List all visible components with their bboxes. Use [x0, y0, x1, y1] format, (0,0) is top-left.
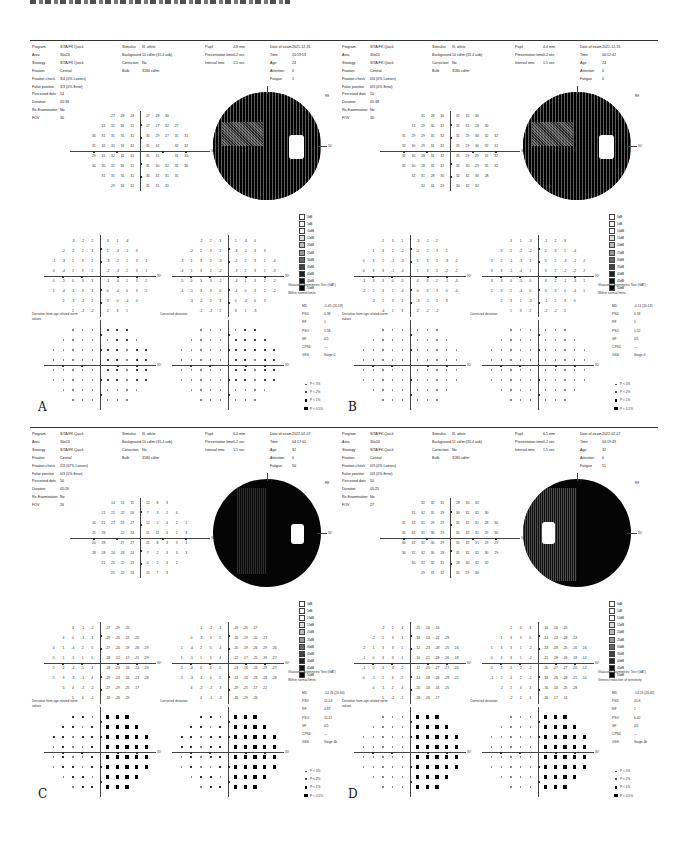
probability-symbol — [107, 389, 108, 390]
probability-symbol — [555, 349, 556, 350]
grid-value: -16 — [123, 666, 131, 670]
probability-symbol — [116, 755, 119, 758]
probability-symbol — [573, 725, 576, 728]
grid-value: -3 — [561, 259, 569, 263]
probability-symbol — [520, 766, 521, 767]
grid-value: 2 — [79, 249, 87, 253]
probability-symbol — [145, 755, 148, 758]
header-col-test: ProgramSITA/FK QuickArea30x24StrategySIT… — [342, 431, 396, 510]
grid-value: 31 — [128, 134, 136, 138]
field-strategy-value: SITA/FK Quick — [370, 60, 394, 68]
axis-tick — [372, 276, 374, 278]
field-presentation-time: Presentation time0.2 sec — [205, 439, 245, 447]
grid-value: 4 — [398, 686, 406, 690]
axis-tick — [427, 365, 429, 367]
grid-value: -25 — [241, 686, 249, 690]
index-md-label: MD — [612, 302, 634, 310]
axis-tick — [372, 752, 374, 754]
probability-legend-label: P < 5% — [310, 380, 320, 388]
probability-symbol — [392, 349, 393, 350]
axis-tick — [140, 124, 142, 126]
index-psd-value: 15.8 — [634, 699, 640, 703]
probability-symbol — [254, 359, 255, 360]
grid-value: -16 — [452, 646, 460, 650]
axis-tick — [426, 538, 428, 540]
grid-value: 24 — [90, 521, 98, 525]
legend-label: 30dB — [617, 645, 624, 649]
grid-value: 27 — [119, 541, 127, 545]
grid-value: -24 — [232, 676, 240, 680]
probability-symbol — [530, 339, 531, 340]
probability-symbol — [363, 369, 364, 370]
legend-label: 15dB — [307, 236, 314, 240]
grid-value: -26 — [133, 646, 141, 650]
index-rf-value: 0.87 — [324, 707, 330, 711]
grid-value: 1 — [526, 259, 534, 263]
probability-symbol — [510, 329, 511, 330]
legend-label: 0dB — [617, 215, 622, 219]
index-psd-label: PSD — [302, 697, 324, 705]
probability-symbol — [545, 349, 546, 350]
probability-symbol — [530, 389, 531, 390]
grid-value: -2 — [270, 289, 278, 293]
probability-symbol — [72, 746, 73, 747]
legend-item: 20dB — [609, 242, 624, 249]
legend-swatch — [609, 235, 615, 241]
grid-value: 4 — [507, 666, 515, 670]
probability-symbol — [136, 349, 138, 351]
legend-swatch — [609, 264, 615, 270]
axis-tick — [100, 766, 102, 768]
grid-value: -18 — [104, 696, 112, 700]
grid-value: 2 — [507, 626, 515, 630]
field-fixation-check-value: 2/3 (67% Losses) — [60, 463, 88, 471]
grid-value: 1 — [398, 656, 406, 660]
grid-value: 0 — [571, 299, 579, 303]
grayscale-horizontal-axis — [627, 146, 637, 147]
axis-tick — [538, 394, 540, 396]
grid-value: 2 — [551, 239, 559, 243]
probability-symbol — [446, 349, 447, 350]
probability-symbol — [210, 329, 211, 330]
probability-symbol — [234, 755, 237, 758]
field-age: Age24 — [270, 60, 310, 68]
grid-value: 2 — [551, 299, 559, 303]
probability-symbol — [190, 726, 192, 728]
grid-value: 27 — [173, 124, 181, 128]
grid-value: -29 — [104, 636, 112, 640]
grid-value: -1 — [197, 626, 205, 630]
grid-value: -2 — [398, 249, 406, 253]
grid-value: 31 — [419, 174, 427, 178]
probability-symbol — [92, 329, 93, 330]
field-correction: CorrectionNo — [122, 447, 172, 455]
grid-value: -25 — [414, 626, 422, 630]
probability-symbol — [545, 359, 546, 360]
grid-value: -3 — [216, 696, 224, 700]
probability-symbol — [210, 736, 212, 738]
field-background-value: 10 cd/m²(31.4 asb) — [142, 439, 172, 447]
pattern-deviation-label: Corrected deviation — [160, 312, 190, 317]
grid-value: -2 — [452, 269, 460, 273]
grid-value: 3 — [379, 269, 387, 273]
field-strategy: StrategySITA/FK Quick — [342, 60, 396, 68]
grid-value: -26 — [251, 696, 259, 700]
axis-tick — [245, 663, 247, 665]
field-duration-label: Duration — [32, 99, 60, 107]
grid-value: 3 — [261, 299, 269, 303]
grid-value: 14 — [109, 501, 117, 505]
legend-label: 25dB — [307, 251, 314, 255]
probability-symbol — [426, 715, 429, 718]
field-presentation-time-value: 0.2 sec — [233, 439, 245, 447]
probability-symbol — [62, 756, 64, 758]
grid-value: -1 — [79, 676, 87, 680]
grid-value: 1 — [561, 249, 569, 253]
probability-symbol — [583, 755, 586, 758]
grid-value: -14 — [423, 636, 431, 640]
axis-tick — [140, 176, 142, 178]
grid-value: 2 — [88, 239, 96, 243]
probability-symbol — [254, 349, 256, 351]
grid-value: -4 — [187, 646, 195, 650]
grid-value: 29 — [438, 511, 446, 515]
probability-symbol — [135, 765, 138, 768]
axis-tick — [538, 379, 540, 381]
axis-tick — [116, 151, 118, 153]
